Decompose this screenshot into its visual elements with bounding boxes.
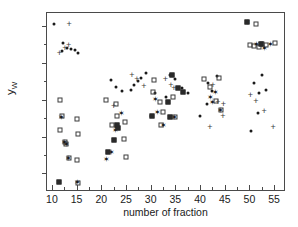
data-point-star: ✶ [217,106,224,113]
y-axis-title-base: y [4,89,16,95]
data-point-square [123,120,128,125]
data-point-square [75,157,80,162]
plot-area: 0,30,40,50,60,710152025303540455055+++++… [46,12,285,191]
data-point-dot [256,111,259,114]
data-point-plus: + [66,21,73,28]
data-point-star: ✶ [118,110,125,117]
x-axis-minor-tick [163,187,164,190]
data-point-dot [115,86,118,89]
y-axis-tick [42,173,47,174]
data-point-dot [110,79,113,82]
data-point-dot [186,91,189,94]
x-axis-minor-tick [114,187,115,190]
data-point-star: ✶ [58,113,65,120]
x-axis-tick [200,185,201,190]
data-point-squarefill [149,114,154,119]
y-axis-tick [42,100,47,101]
data-point-plus: + [261,107,268,114]
data-point-dot [261,74,264,77]
x-axis-tick [249,185,250,190]
data-point-plus: + [252,97,259,104]
data-point-square [75,131,80,136]
data-point-square [113,101,118,106]
data-point-star: ✶ [160,122,167,129]
data-point-square [202,77,207,82]
x-axis-minor-tick [262,187,263,190]
data-point-star: ✶ [65,155,72,162]
data-point-square [254,22,259,27]
y-axis-minor-tick [44,155,47,156]
scatter-plot-figure: yW number of fraction 0,30,40,50,60,7101… [0,0,298,227]
data-point-star: ✶ [212,89,219,96]
data-point-dot [52,22,55,25]
data-point-squarefill [259,42,264,47]
data-point-square [216,75,221,80]
data-point-star: ✶ [74,179,81,186]
data-point-dot [132,83,135,86]
x-axis-minor-tick [212,187,213,190]
data-point-dot [129,88,132,91]
x-axis-tick [274,185,275,190]
x-axis-tick [126,185,127,190]
data-point-star: ✶ [209,98,216,105]
data-point-dot [77,52,80,55]
data-point-star: ✶ [152,95,159,102]
data-point-star: ✶ [267,40,274,47]
data-point-square [170,95,175,100]
data-point-squarefill [106,150,111,155]
y-axis-title-subscript: W [10,82,19,90]
data-point-star: ✶ [63,140,70,147]
data-point-dot [250,130,253,133]
data-point-plus: + [206,124,213,131]
data-point-squarefill [165,99,170,104]
data-point-squarefill [57,179,62,184]
data-point-square [123,154,128,159]
data-point-dot [164,96,167,99]
x-axis-tick [101,185,102,190]
y-axis-tick [42,137,47,138]
data-point-square [104,97,109,102]
x-axis-minor-tick [89,187,90,190]
x-axis-tick [225,185,226,190]
data-point-dot [73,49,76,52]
y-axis-minor-tick [44,44,47,45]
data-point-dot [145,71,148,74]
x-axis-tick [52,185,53,190]
data-point-square [151,77,156,82]
data-point-squarefill [112,137,117,142]
x-axis-tick [175,185,176,190]
data-point-square [74,117,79,122]
x-axis-tick [151,185,152,190]
data-point-square [57,98,62,103]
data-point-plus: + [133,76,140,83]
data-point-plus: + [140,83,147,90]
y-axis-tick [42,26,47,27]
data-point-dot [264,88,267,91]
data-point-squarefill [114,123,119,128]
data-point-dot [120,90,123,93]
data-point-square [161,110,166,115]
y-axis-title: yW [4,82,19,95]
data-point-dot [252,82,255,85]
x-axis-tick-label: 55 [259,193,289,205]
data-point-dot [199,114,202,117]
x-axis-minor-tick [237,187,238,190]
data-point-square [122,137,127,142]
data-point-plus: + [270,124,277,131]
data-point-squarefill [170,72,175,77]
y-axis-minor-tick [44,118,47,119]
x-axis-title: number of fraction [46,206,285,218]
data-point-dot [258,91,261,94]
y-axis-minor-tick [44,81,47,82]
data-point-square [58,128,63,133]
x-axis-minor-tick [188,187,189,190]
data-point-squarefill [168,115,173,120]
data-point-squarefill [244,20,249,25]
x-axis-minor-tick [64,187,65,190]
data-point-star: ✶ [154,109,161,116]
y-axis-tick [42,63,47,64]
data-point-plus: + [65,42,72,49]
data-point-squarefill [180,90,185,95]
x-axis-minor-tick [138,187,139,190]
